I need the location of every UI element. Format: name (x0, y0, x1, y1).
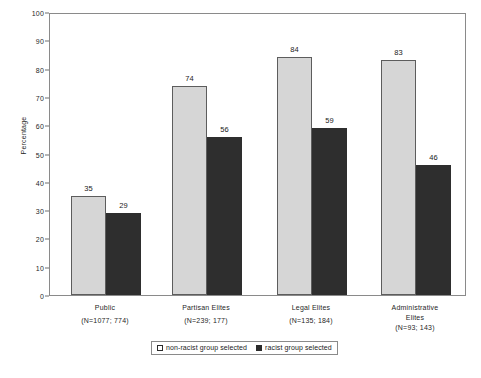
y-axis-tick-label: 50 (0, 151, 44, 158)
bar-chart-screenshot: Percentage 1009080706050403020100 352974… (0, 0, 481, 378)
bar-light (381, 60, 416, 295)
bar-value-label: 84 (290, 45, 299, 54)
bar-dark (312, 128, 347, 295)
legend-label: racist group selected (265, 344, 332, 351)
bar-value-label: 83 (394, 48, 403, 57)
x-axis-category-label: Public (95, 303, 115, 313)
x-axis-category-label: Administrative Elites (392, 303, 439, 323)
y-axis-tick-label: 10 (0, 264, 44, 271)
bar-light (277, 57, 312, 295)
y-axis-tick-label: 0 (0, 293, 44, 300)
bar-dark (416, 165, 451, 295)
bar-dark (106, 213, 141, 295)
x-axis-sample-size-label: (N=135; 184) (289, 317, 332, 324)
y-axis-tick-label: 30 (0, 208, 44, 215)
bar-value-label: 56 (220, 125, 229, 134)
bar-light (71, 196, 106, 295)
legend-swatch-dark (256, 345, 262, 351)
legend-item: racist group selected (256, 344, 332, 351)
bar-dark (207, 137, 242, 295)
y-axis-tick-label: 100 (0, 10, 44, 17)
y-axis-tick-label: 70 (0, 94, 44, 101)
legend-item: non-racist group selected (157, 344, 247, 351)
x-axis-category-label: Legal Elites (292, 303, 331, 313)
x-axis-sample-size-label: (N=239; 177) (184, 317, 227, 324)
bar-value-label: 29 (119, 201, 128, 210)
bar-light (172, 86, 207, 295)
y-axis-tick-label: 40 (0, 179, 44, 186)
bar-value-label: 35 (84, 184, 93, 193)
bar-value-label: 46 (429, 153, 438, 162)
x-axis-sample-size-label: (N=1077; 774) (81, 317, 129, 324)
x-axis-sample-size-label: (N=93; 143) (395, 324, 434, 331)
y-axis-tick-label: 80 (0, 66, 44, 73)
legend-swatch-light (157, 345, 163, 351)
y-axis-tick-label: 60 (0, 123, 44, 130)
y-axis-title: Percentage (20, 91, 27, 181)
bar-value-label: 59 (325, 116, 334, 125)
plot-area: 3529745684598346 (49, 13, 466, 296)
legend-label: non-racist group selected (166, 344, 247, 351)
y-axis-tick-label: 90 (0, 38, 44, 45)
y-axis-tick-label: 20 (0, 236, 44, 243)
chart-legend: non-racist group selectedracist group se… (151, 341, 338, 355)
x-axis-category-label: Partisan Elites (182, 303, 230, 313)
bar-value-label: 74 (185, 74, 194, 83)
